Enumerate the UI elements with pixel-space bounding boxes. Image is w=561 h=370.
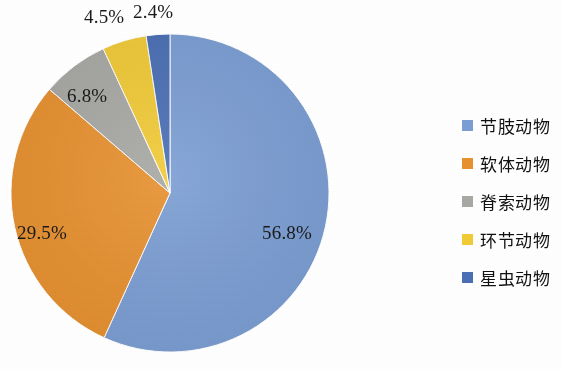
legend-swatch-icon bbox=[462, 272, 473, 283]
legend-item-label: 星虫动物 bbox=[480, 265, 550, 290]
legend-item-label: 软体动物 bbox=[480, 151, 550, 176]
legend-item-arthropoda[interactable]: 节肢动物 bbox=[462, 106, 561, 144]
slice-value-label-chordata: 6.8% bbox=[67, 85, 107, 107]
pie-chart-figure: 56.8% 29.5% 6.8% 4.5% 2.4% 节肢动物 软体动物 脊索动… bbox=[0, 0, 561, 370]
legend-item-annelida[interactable]: 环节动物 bbox=[462, 220, 561, 258]
slice-value-label-arthropoda: 56.8% bbox=[262, 222, 312, 244]
legend-swatch-icon bbox=[462, 158, 473, 169]
legend-item-label: 节肢动物 bbox=[480, 113, 550, 138]
pie-scan-shading bbox=[11, 34, 329, 352]
legend-item-chordata[interactable]: 脊索动物 bbox=[462, 182, 561, 220]
legend-item-label: 环节动物 bbox=[480, 227, 550, 252]
legend-swatch-icon bbox=[462, 196, 473, 207]
legend-item-mollusca[interactable]: 软体动物 bbox=[462, 144, 561, 182]
legend-swatch-icon bbox=[462, 120, 473, 131]
legend-swatch-icon bbox=[462, 234, 473, 245]
slice-value-label-sipuncula: 2.4% bbox=[133, 1, 173, 23]
slice-value-label-mollusca: 29.5% bbox=[17, 222, 67, 244]
slice-value-label-annelida: 4.5% bbox=[84, 6, 124, 28]
chart-legend: 节肢动物 软体动物 脊索动物 环节动物 星虫动物 bbox=[462, 106, 561, 296]
legend-item-sipuncula[interactable]: 星虫动物 bbox=[462, 258, 561, 296]
legend-item-label: 脊索动物 bbox=[480, 189, 550, 214]
